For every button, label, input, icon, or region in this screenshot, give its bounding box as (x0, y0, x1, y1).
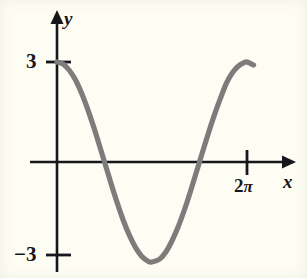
x-axis-label: x (283, 172, 293, 191)
y-tick-label-negative-3: −3 (14, 244, 36, 265)
pi-symbol-icon: π (244, 177, 253, 196)
graph-figure: y x 3 −3 2π (0, 0, 307, 278)
x-tick-label-2pi-number: 2 (234, 175, 244, 196)
y-axis-label: y (64, 9, 72, 28)
x-axis-arrowhead (282, 156, 296, 169)
coordinate-plot (0, 0, 307, 278)
y-tick-label-3: 3 (26, 51, 37, 72)
y-axis-arrowhead (51, 10, 64, 24)
x-tick-label-2pi: 2π (234, 176, 253, 195)
